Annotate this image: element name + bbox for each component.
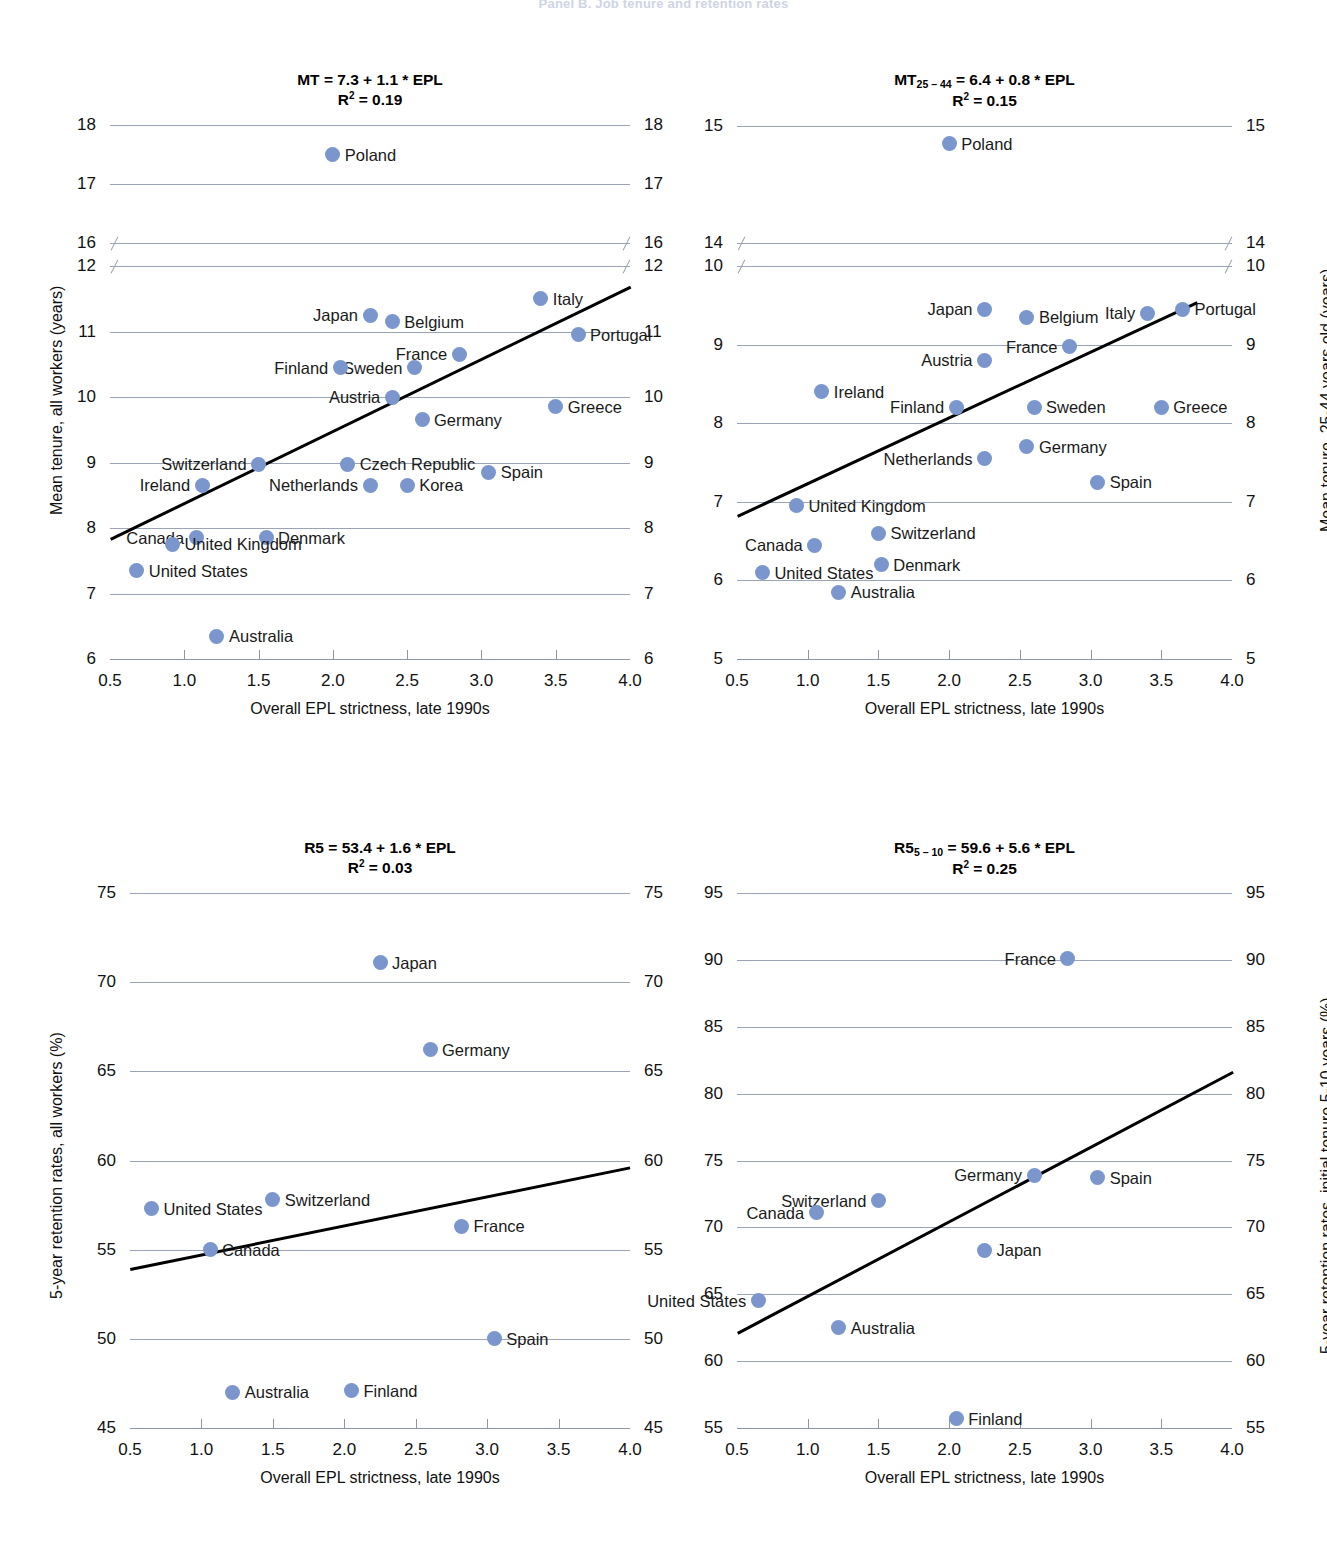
y-tick-left-70: 70 (673, 1218, 723, 1235)
y-tick-right-85: 85 (1246, 1018, 1296, 1035)
data-point-finland (949, 1411, 964, 1426)
x-tick-label-0.5: 0.5 (714, 1441, 760, 1458)
x-tick-mark-1 (808, 1419, 809, 1428)
x-tick-label-4: 4.0 (1209, 1441, 1255, 1458)
y-tick-right-80: 80 (1246, 1085, 1296, 1102)
data-label-germany: Germany (954, 1167, 1022, 1183)
data-label-canada: Canada (746, 1205, 804, 1221)
y-tick-left-55: 55 (673, 1419, 723, 1436)
data-point-france (1060, 951, 1075, 966)
data-point-germany (1027, 1168, 1042, 1183)
x-axis-line (737, 1428, 1232, 1429)
x-tick-mark-3 (1091, 1419, 1092, 1428)
y-tick-left-80: 80 (673, 1085, 723, 1102)
y-tick-right-55: 55 (1246, 1419, 1296, 1436)
data-point-japan (977, 1243, 992, 1258)
x-tick-mark-1.5 (878, 1419, 879, 1428)
data-point-united-states (751, 1293, 766, 1308)
x-tick-label-2.5: 2.5 (997, 1441, 1043, 1458)
gridline-60 (737, 1361, 1232, 1362)
regression-equation: R55 – 10 = 59.6 + 5.6 * EPL (737, 838, 1232, 859)
data-point-spain (1090, 1170, 1105, 1185)
x-tick-label-3: 3.0 (1068, 1441, 1114, 1458)
panel-bottom-right: R55 – 10 = 59.6 + 5.6 * EPLR2 = 0.259595… (0, 0, 1327, 1548)
gridline-75 (737, 1161, 1232, 1162)
y-tick-right-65: 65 (1246, 1285, 1296, 1302)
y-tick-left-85: 85 (673, 1018, 723, 1035)
x-tick-label-2: 2.0 (926, 1441, 972, 1458)
x-tick-mark-3.5 (1161, 1419, 1162, 1428)
y-axis-title: 5-year retention rates, initial tenure 5… (1318, 997, 1327, 1354)
x-tick-label-1.5: 1.5 (855, 1441, 901, 1458)
r-squared-value: R2 = 0.25 (737, 859, 1232, 881)
y-tick-right-60: 60 (1246, 1352, 1296, 1369)
panel-title-bottom-right: R55 – 10 = 59.6 + 5.6 * EPLR2 = 0.25 (737, 838, 1232, 881)
gridline-95 (737, 893, 1232, 894)
y-tick-right-75: 75 (1246, 1152, 1296, 1169)
data-label-australia: Australia (851, 1320, 915, 1336)
data-label-spain: Spain (1110, 1170, 1152, 1186)
gridline-90 (737, 960, 1232, 961)
x-axis-title: Overall EPL strictness, late 1990s (737, 1469, 1232, 1487)
gridline-70 (737, 1227, 1232, 1228)
y-tick-left-90: 90 (673, 951, 723, 968)
data-label-finland: Finland (968, 1411, 1022, 1427)
data-label-france: France (1005, 951, 1056, 967)
y-tick-left-75: 75 (673, 1152, 723, 1169)
gridline-80 (737, 1094, 1232, 1095)
y-tick-left-60: 60 (673, 1352, 723, 1369)
y-tick-right-95: 95 (1246, 884, 1296, 901)
gridline-85 (737, 1027, 1232, 1028)
data-label-japan: Japan (997, 1242, 1042, 1258)
y-tick-right-90: 90 (1246, 951, 1296, 968)
data-label-united-states: United States (647, 1293, 746, 1309)
data-point-switzerland (871, 1193, 886, 1208)
x-tick-label-1: 1.0 (785, 1441, 831, 1458)
data-point-canada (809, 1205, 824, 1220)
y-tick-right-70: 70 (1246, 1218, 1296, 1235)
data-point-australia (831, 1320, 846, 1335)
x-tick-label-3.5: 3.5 (1138, 1441, 1184, 1458)
y-tick-left-95: 95 (673, 884, 723, 901)
